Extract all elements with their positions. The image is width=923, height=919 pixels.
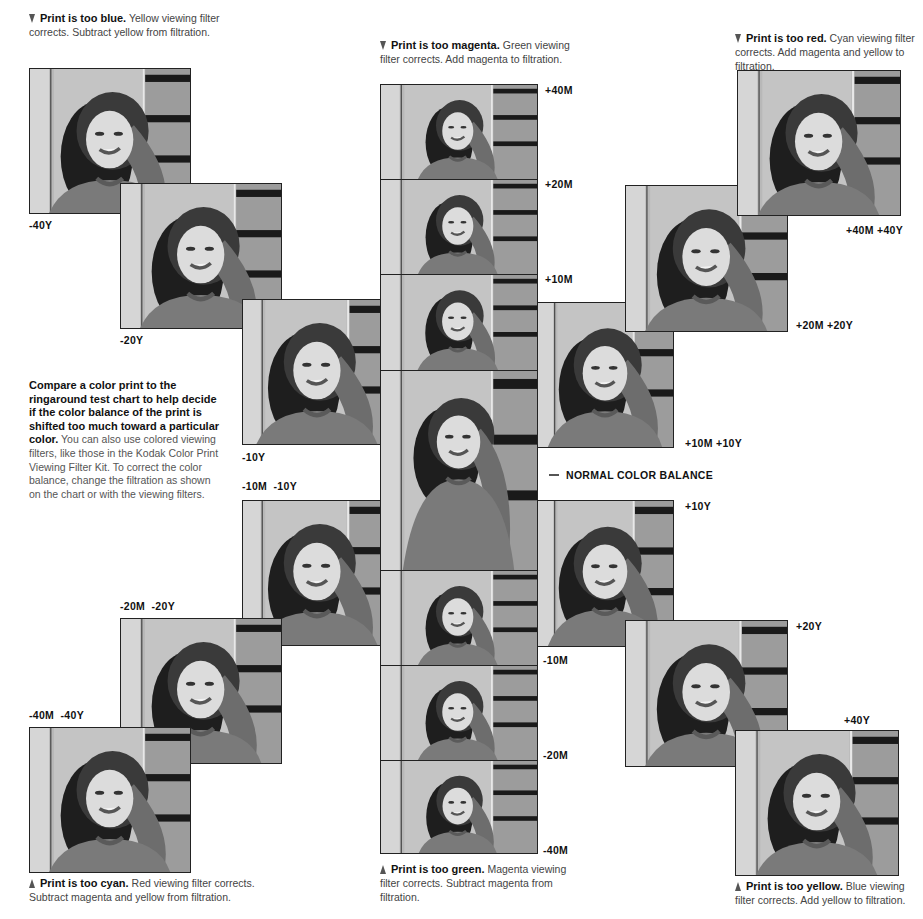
label-minus-20y: -20Y	[120, 334, 143, 346]
label-minus-40y: -40Y	[29, 219, 52, 231]
photo-m40m-m40y	[29, 727, 191, 873]
pointer-left-icon	[549, 474, 559, 476]
arrow-down-icon	[29, 14, 35, 23]
caption-too-red: Print is too red. Cyan viewing filter co…	[735, 31, 923, 73]
caption-heading: Print is too magenta.	[391, 39, 500, 51]
label-minus-40m: -40M	[543, 844, 568, 856]
photo-m40m	[380, 760, 538, 854]
label-plus-10m-plus-10y: +10M +10Y	[685, 437, 742, 449]
photo-p10m	[380, 274, 538, 371]
caption-heading: Print is too cyan.	[40, 877, 129, 889]
photo-normal	[380, 370, 538, 571]
photo-p20m	[380, 179, 538, 275]
label-plus-40m-plus-40y: +40M +40Y	[846, 224, 903, 236]
label-plus-20m: +20M	[545, 178, 573, 190]
photo-p40m-p40y	[737, 70, 901, 216]
photo-m10m	[380, 570, 538, 666]
arrow-down-icon	[380, 41, 386, 50]
label-minus-10y: -10Y	[242, 451, 265, 463]
label-minus-20m-minus-20y: -20M -20Y	[120, 600, 175, 612]
label-plus-10m: +10M	[545, 273, 573, 285]
photo-p40m	[380, 84, 538, 180]
caption-too-blue: Print is too blue. Yellow viewing filter…	[29, 11, 229, 39]
arrow-down-icon	[735, 34, 741, 43]
label-minus-40m-minus-40y: -40M -40Y	[29, 709, 84, 721]
caption-heading: Print is too red.	[746, 32, 827, 44]
label-plus-10y: +10Y	[685, 500, 711, 512]
caption-too-green: Print is too green. Magenta viewing filt…	[380, 862, 580, 904]
label-minus-10m-minus-10y: -10M -10Y	[242, 480, 297, 492]
caption-too-yellow: Print is too yellow. Blue viewing filter…	[735, 879, 915, 907]
arrow-up-icon	[735, 882, 741, 891]
caption-heading: Print is too blue.	[40, 12, 126, 24]
label-normal-color-balance: NORMAL COLOR BALANCE	[549, 469, 713, 481]
caption-heading: Print is too yellow.	[746, 880, 843, 892]
arrow-up-icon	[29, 879, 35, 888]
label-minus-10m: -10M	[543, 654, 568, 666]
label-plus-20m-plus-20y: +20M +20Y	[796, 319, 853, 331]
label-plus-20y: +20Y	[796, 620, 822, 632]
caption-heading: Print is too green.	[391, 863, 485, 875]
intro-body: You can also use colored viewing filters…	[29, 433, 218, 499]
label-plus-40y: +40Y	[844, 714, 870, 726]
intro-paragraph: Compare a color print to the ringaround …	[29, 379, 225, 501]
label-minus-20m: -20M	[543, 749, 568, 761]
caption-too-magenta: Print is too magenta. Green viewing filt…	[380, 38, 570, 66]
normal-label-text: NORMAL COLOR BALANCE	[566, 469, 713, 481]
arrow-up-icon	[380, 865, 386, 874]
label-plus-40m: +40M	[545, 84, 573, 96]
photo-m20m	[380, 665, 538, 761]
photo-m10y	[242, 299, 392, 445]
photo-p40y	[735, 730, 899, 876]
caption-too-cyan: Print is too cyan. Red viewing filter co…	[29, 876, 269, 904]
